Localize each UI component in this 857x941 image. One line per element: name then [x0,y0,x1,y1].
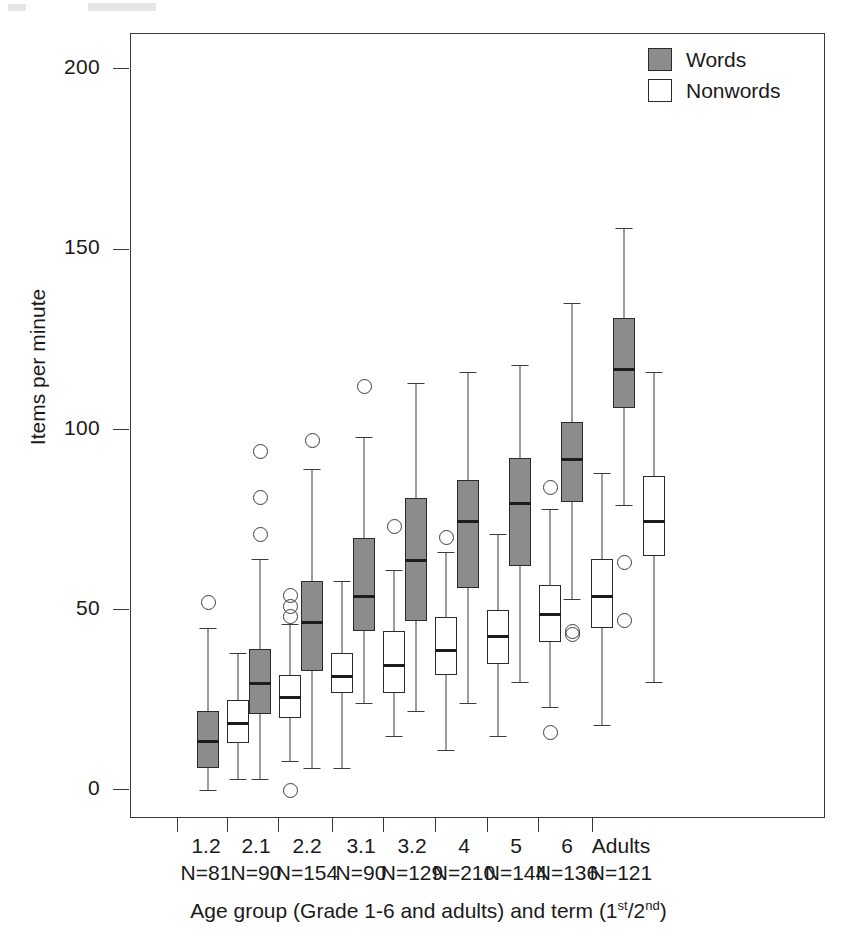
boxplot-nonwords-4 [487,0,509,941]
whisker-lower [654,556,655,682]
whisker-upper [468,372,469,480]
whisker-cap-lower [334,768,351,769]
legend-item: Words [648,44,781,75]
whisker-cap-upper [282,624,299,625]
whisker-upper [260,559,261,649]
box-iqr [435,617,457,675]
y-axis-tick [113,249,129,250]
boxplot-nonwords-3.2 [435,0,457,941]
whisker-upper [550,509,551,585]
outlier-point [253,444,268,459]
whisker-cap-upper [230,653,247,654]
median-line [279,696,301,699]
box-iqr [591,559,613,627]
whisker-cap-lower [646,682,663,683]
whisker-cap-upper [334,581,351,582]
whisker-cap-lower [594,725,611,726]
median-line [487,635,509,638]
whisker-lower [290,718,291,761]
whisker-cap-upper [594,473,611,474]
whisker-cap-lower [356,703,373,704]
boxplot-nonwords-5 [539,0,561,941]
chart-page: 050100150200 Items per minute 1.2N=812.1… [0,0,857,941]
legend-label: Words [686,48,746,72]
scan-artifact [88,3,156,11]
whisker-cap-upper [408,383,425,384]
boxplot-nonwords-1.2 [227,0,249,941]
whisker-cap-lower [282,761,299,762]
whisker-upper [520,365,521,459]
y-axis-title: Items per minute [26,267,50,467]
boxplot-words-6 [561,0,583,941]
box-iqr [301,581,323,671]
whisker-upper [446,552,447,617]
whisker-upper [602,473,603,560]
whisker-cap-lower [386,736,403,737]
whisker-cap-upper [356,437,373,438]
boxplot-words-Adults [613,0,635,941]
y-axis-tick [113,68,129,69]
whisker-cap-lower [512,682,529,683]
whisker-cap-upper [386,570,403,571]
whisker-cap-upper [512,365,529,366]
median-line [591,595,613,598]
x-axis-tick [177,818,178,832]
legend-label: Nonwords [686,79,781,103]
whisker-lower [416,621,417,711]
whisker-lower [446,675,447,751]
whisker-upper [208,628,209,711]
median-line [331,675,353,678]
y-axis-tick-label: 200 [16,55,100,79]
whisker-upper [498,534,499,610]
whisker-lower [498,664,499,736]
whisker-cap-lower [438,750,455,751]
boxplot-words-3.1 [353,0,375,941]
whisker-cap-lower [616,505,633,506]
box-iqr [331,653,353,693]
whisker-cap-upper [304,469,321,470]
median-line [561,458,583,461]
whisker-lower [520,566,521,681]
median-line [435,649,457,652]
outlier-point [305,433,320,448]
whisker-cap-lower [304,768,321,769]
whisker-upper [394,570,395,631]
outlier-point [357,379,372,394]
whisker-cap-lower [490,736,507,737]
boxplot-nonwords-2.1 [279,0,301,941]
outlier-point [387,519,402,534]
box-iqr [353,538,375,632]
whisker-upper [364,437,365,538]
median-line [509,502,531,505]
whisker-lower [572,502,573,599]
whisker-lower [394,693,395,736]
whisker-cap-lower [200,790,217,791]
whisker-lower [260,714,261,779]
median-line [249,682,271,685]
whisker-upper [290,624,291,674]
median-line [197,740,219,743]
whisker-cap-upper [252,559,269,560]
legend: WordsNonwords [648,44,781,106]
whisker-cap-lower [230,779,247,780]
scan-artifact [8,4,26,11]
x-axis-title: Age group (Grade 1-6 and adults) and ter… [0,898,857,923]
whisker-upper [572,303,573,422]
y-axis-tick-label: 50 [16,596,100,620]
boxplot-words-4 [457,0,479,941]
whisker-lower [602,628,603,725]
box-iqr [613,318,635,408]
whisker-cap-upper [460,372,477,373]
median-line [539,613,561,616]
outlier-point [565,627,580,642]
boxplot-words-2.2 [301,0,323,941]
median-line [383,664,405,667]
boxplot-nonwords-2.2 [331,0,353,941]
outlier-point [201,595,216,610]
boxplot-words-3.2 [405,0,427,941]
median-line [457,520,479,523]
box-iqr [457,480,479,588]
boxplot-nonwords-6 [591,0,613,941]
whisker-cap-upper [490,534,507,535]
y-axis-tick [113,789,129,790]
